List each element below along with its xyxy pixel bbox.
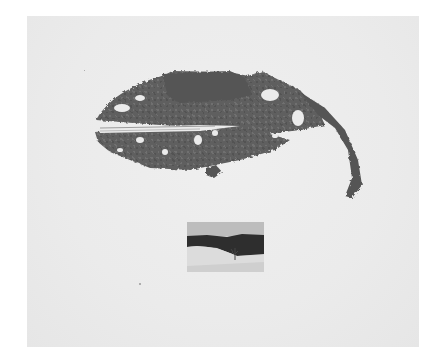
paper-speck [84,70,85,71]
paper-speck [139,283,141,285]
landscape-photo [187,222,264,272]
torn-leaf [0,0,428,359]
